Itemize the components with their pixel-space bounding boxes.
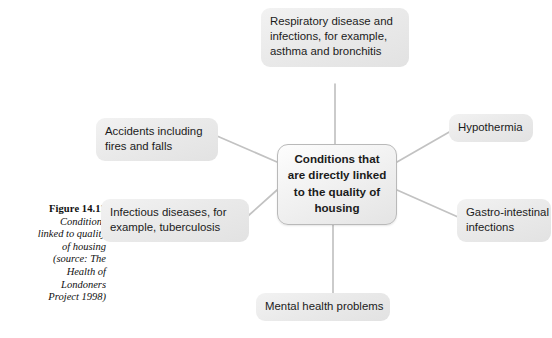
node-line: infections, for example, — [270, 29, 400, 44]
connector-center-gastro — [397, 190, 458, 217]
figure-caption-line: of housing — [4, 241, 106, 254]
figure-caption-line: Londoners — [4, 279, 106, 292]
node-line: Accidents including — [105, 124, 209, 139]
node-line: Mental health problems — [265, 299, 381, 314]
node-line: Gastro-intestinal — [466, 205, 542, 220]
node-line: Hypothermia — [458, 120, 524, 135]
node-line: Conditions that — [287, 151, 387, 167]
connector-center-infectious — [248, 190, 277, 216]
figure-caption-line: Project 1998) — [4, 291, 106, 304]
figure-caption-line: linked to quality — [4, 228, 106, 241]
node-line: infections — [466, 220, 542, 235]
node-accidents: Accidents including fires and falls — [96, 118, 218, 161]
node-line: example, tuberculosis — [110, 220, 240, 235]
node-gastro-intestinal-infections: Gastro-intestinal infections — [457, 199, 551, 242]
node-line: Respiratory disease and — [270, 14, 400, 29]
node-line: Infectious diseases, for — [110, 205, 240, 220]
node-mental-health-problems: Mental health problems — [256, 293, 390, 321]
node-line: to the quality of — [287, 184, 387, 200]
figure-caption: Figure 14.12 Conditions linked to qualit… — [4, 203, 106, 304]
node-line: are directly linked — [287, 167, 387, 183]
connector-center-hypothermia — [397, 131, 451, 162]
connector-center-accidents — [217, 136, 277, 162]
figure-caption-title: Figure 14.12 — [4, 203, 106, 216]
node-line: asthma and bronchitis — [270, 44, 400, 59]
figure-caption-line: Health of — [4, 266, 106, 279]
node-infectious-diseases: Infectious diseases, for example, tuberc… — [101, 199, 249, 242]
node-central-conditions: Conditions that are directly linked to t… — [277, 144, 397, 225]
node-line: fires and falls — [105, 139, 209, 154]
node-hypothermia: Hypothermia — [449, 114, 533, 142]
node-line: housing — [287, 200, 387, 216]
figure-caption-line: (source: The — [4, 253, 106, 266]
node-respiratory-disease: Respiratory disease and infections, for … — [261, 8, 409, 67]
figure-caption-line: Conditions — [4, 216, 106, 229]
